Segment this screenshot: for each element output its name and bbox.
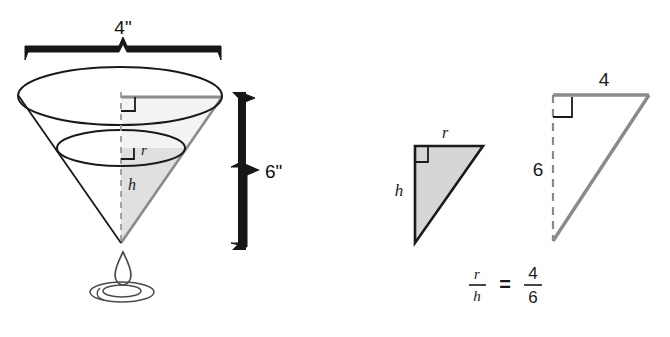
bracket-right-tip bbox=[246, 164, 260, 176]
rh-triangle-group: r h bbox=[395, 124, 483, 243]
cone-depth-label: h bbox=[128, 176, 136, 193]
height-dimension-bracket: 6" bbox=[231, 92, 282, 250]
cone-funnel-group: r h bbox=[18, 67, 222, 302]
geometry-figure: r h 4" 6" r h bbox=[0, 0, 670, 337]
rh-side-label: h bbox=[395, 181, 404, 200]
water-drop-icon bbox=[115, 252, 131, 285]
cone-left-wall bbox=[18, 95, 121, 243]
height-dimension-label: 6" bbox=[265, 161, 282, 182]
rh-triangle-shape bbox=[415, 146, 483, 243]
width-dimension-bracket: 4" bbox=[25, 17, 221, 60]
figure-root: r h 4" 6" r h bbox=[0, 0, 670, 337]
46-top-label: 4 bbox=[599, 69, 610, 90]
ripple-inner bbox=[103, 285, 141, 297]
rh-top-label: r bbox=[442, 124, 449, 141]
cone-radius-label: r bbox=[141, 142, 147, 158]
bracket-right-bar bbox=[238, 98, 246, 244]
equation-left-numerator: r bbox=[474, 266, 480, 282]
46-right-angle-mark bbox=[553, 97, 572, 117]
46-side-label: 6 bbox=[533, 159, 544, 180]
equation-right-denominator: 6 bbox=[528, 288, 537, 307]
width-dimension-label: 4" bbox=[114, 17, 131, 38]
equation-right-numerator: 4 bbox=[528, 264, 537, 283]
ratio-equation-group: r h = 4 6 bbox=[469, 264, 542, 307]
equation-equals-sign: = bbox=[499, 273, 511, 295]
bracket-top-shape bbox=[25, 37, 221, 60]
equation-left-denominator: h bbox=[473, 288, 481, 304]
46-triangle-group: 4 6 bbox=[533, 69, 649, 241]
